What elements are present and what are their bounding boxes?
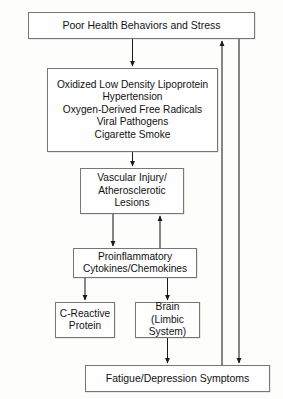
- node-poor-health-behaviors-and-stress: Poor Health Behaviors and Stress: [28, 12, 255, 39]
- node-label: Oxidized Low Density Lipoprotein Hyperte…: [48, 79, 217, 141]
- node-label: C-Reactive Protein: [56, 308, 114, 333]
- node-label: Proinflammatory Cytokines/Chemokines: [74, 251, 196, 276]
- node-fatigue-depression-symptoms: Fatigue/Depression Symptoms: [85, 365, 270, 392]
- node-label: Fatigue/Depression Symptoms: [86, 372, 269, 385]
- node-label: Poor Health Behaviors and Stress: [29, 19, 254, 32]
- node-brain-limbic-system: Brain (Limbic System): [135, 302, 200, 338]
- node-label: Vascular Injury/ Atherosclerotic Lesions: [81, 172, 183, 209]
- node-c-reactive-protein: C-Reactive Protein: [55, 302, 115, 338]
- node-vascular-injury-atherosclerotic-lesions: Vascular Injury/ Atherosclerotic Lesions: [80, 168, 184, 214]
- flowchart-diagram: Poor Health Behaviors and Stress Oxidize…: [0, 0, 283, 399]
- node-proinflammatory-cytokines-chemokines: Proinflammatory Cytokines/Chemokines: [73, 248, 197, 278]
- node-label: Brain (Limbic System): [136, 301, 199, 338]
- node-risk-factors: Oxidized Low Density Lipoprotein Hyperte…: [47, 68, 218, 152]
